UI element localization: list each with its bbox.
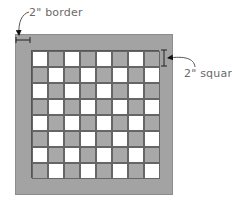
light-square xyxy=(128,51,144,67)
light-square xyxy=(80,67,96,83)
dark-square xyxy=(96,67,112,83)
light-square xyxy=(48,99,64,115)
light-square xyxy=(96,115,112,131)
dark-square xyxy=(64,131,80,147)
dark-square xyxy=(32,99,48,115)
light-square xyxy=(64,115,80,131)
dark-square xyxy=(32,163,48,179)
dark-square xyxy=(48,83,64,99)
dark-square xyxy=(64,163,80,179)
light-square xyxy=(144,67,160,83)
dark-square xyxy=(112,147,128,163)
light-square xyxy=(64,51,80,67)
light-square xyxy=(48,67,64,83)
light-square xyxy=(64,147,80,163)
dark-square xyxy=(48,147,64,163)
dark-square xyxy=(128,163,144,179)
light-square xyxy=(112,163,128,179)
dark-square xyxy=(112,83,128,99)
light-square xyxy=(144,163,160,179)
dark-square xyxy=(80,51,96,67)
light-square xyxy=(112,131,128,147)
light-square xyxy=(128,147,144,163)
dark-square xyxy=(144,83,160,99)
dark-square xyxy=(112,51,128,67)
light-square xyxy=(96,83,112,99)
dark-square xyxy=(96,99,112,115)
light-square xyxy=(128,115,144,131)
border-dimension-label: 2" border xyxy=(29,6,83,19)
light-square xyxy=(48,131,64,147)
light-square xyxy=(128,83,144,99)
dark-square xyxy=(80,147,96,163)
dark-square xyxy=(96,163,112,179)
light-square xyxy=(80,99,96,115)
dark-square xyxy=(48,115,64,131)
checkerboard-grid xyxy=(31,50,159,178)
dark-square xyxy=(64,99,80,115)
dark-square xyxy=(128,131,144,147)
light-square xyxy=(32,147,48,163)
light-square xyxy=(80,131,96,147)
light-square xyxy=(48,163,64,179)
light-square xyxy=(144,131,160,147)
dark-square xyxy=(80,115,96,131)
dark-square xyxy=(64,67,80,83)
light-square xyxy=(112,67,128,83)
light-square xyxy=(32,115,48,131)
light-square xyxy=(80,163,96,179)
light-square xyxy=(112,99,128,115)
dark-square xyxy=(128,67,144,83)
dark-square xyxy=(80,83,96,99)
square-dimension-label: 2" squares xyxy=(184,67,232,80)
dark-square xyxy=(128,99,144,115)
light-square xyxy=(144,99,160,115)
dark-square xyxy=(144,115,160,131)
light-square xyxy=(32,83,48,99)
dark-square xyxy=(96,131,112,147)
light-square xyxy=(64,83,80,99)
light-square xyxy=(96,51,112,67)
dark-square xyxy=(32,67,48,83)
dark-square xyxy=(144,51,160,67)
dark-square xyxy=(48,51,64,67)
light-square xyxy=(96,147,112,163)
light-square xyxy=(32,51,48,67)
dark-square xyxy=(144,147,160,163)
dark-square xyxy=(112,115,128,131)
dark-square xyxy=(32,131,48,147)
border-arrow-icon xyxy=(19,12,29,35)
